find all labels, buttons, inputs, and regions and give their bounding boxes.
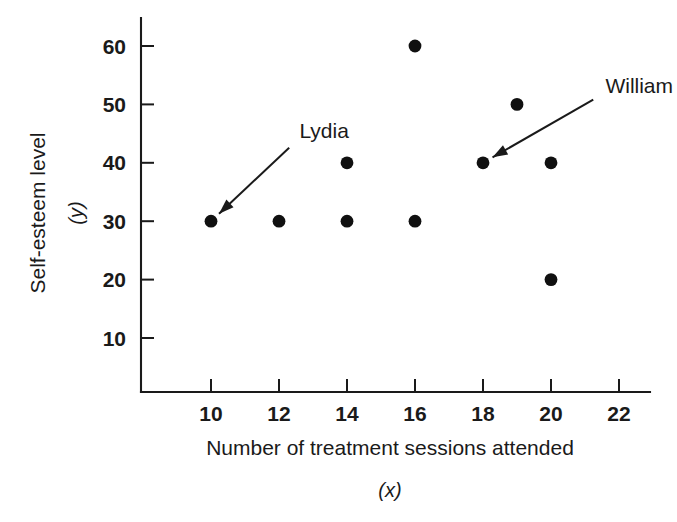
x-axis-tick-labels: 10121416182022 (199, 402, 630, 425)
y-axis-variable-label: (y) (65, 201, 87, 224)
x-axis-title: Number of treatment sessions attended (206, 436, 574, 459)
data-point (205, 215, 218, 228)
x-tick-label: 20 (539, 402, 562, 425)
y-tick-label: 30 (103, 210, 126, 233)
x-tick-label: 14 (335, 402, 359, 425)
y-axis-ticks (141, 46, 154, 338)
x-tick-label: 16 (403, 402, 426, 425)
data-point (409, 215, 422, 228)
y-axis-tick-labels: 102030405060 (103, 35, 126, 350)
annotation-label-william: William (605, 74, 673, 97)
x-tick-label: 10 (199, 402, 222, 425)
x-tick-label: 18 (471, 402, 495, 425)
annotation-arrow-head (493, 145, 509, 157)
annotation-label-lydia: Lydia (299, 119, 349, 142)
scatterplot-figure: 102030405060 10121416182022 LydiaWilliam… (0, 0, 677, 522)
y-tick-label: 40 (103, 151, 126, 174)
annotation-arrow-line (493, 100, 594, 158)
axes-group (141, 18, 650, 392)
data-point (273, 215, 286, 228)
y-tick-label: 50 (103, 93, 126, 116)
y-tick-label: 20 (103, 268, 126, 291)
x-axis-ticks (211, 379, 619, 392)
data-point (341, 215, 354, 228)
data-point (511, 98, 524, 111)
x-tick-label: 22 (607, 402, 630, 425)
scatterplot-canvas: 102030405060 10121416182022 LydiaWilliam… (0, 0, 677, 522)
data-point (341, 156, 354, 169)
y-axis-title: Self-esteem level (26, 132, 49, 293)
data-point (477, 156, 490, 169)
annotations-layer: LydiaWilliam (219, 74, 673, 214)
data-point (409, 40, 422, 53)
data-point (545, 156, 558, 169)
y-tick-label: 10 (103, 327, 126, 350)
data-point (545, 273, 558, 286)
x-axis-variable-label: (x) (378, 479, 401, 501)
y-tick-label: 60 (103, 35, 126, 58)
data-points-layer (205, 40, 558, 286)
x-tick-label: 12 (267, 402, 290, 425)
